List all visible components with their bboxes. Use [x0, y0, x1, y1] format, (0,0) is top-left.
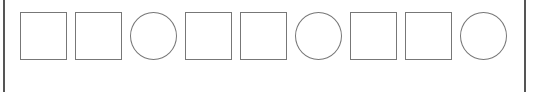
circle-shape-9[interactable]	[460, 12, 507, 60]
square-shape-8[interactable]	[405, 12, 452, 60]
square-shape-7[interactable]	[350, 12, 397, 60]
circle-shape-6[interactable]	[295, 12, 342, 60]
square-shape-1[interactable]	[20, 12, 67, 60]
circle-shape-3[interactable]	[130, 12, 177, 60]
square-shape-5[interactable]	[240, 12, 287, 60]
square-shape-2[interactable]	[75, 12, 122, 60]
square-shape-4[interactable]	[185, 12, 232, 60]
shape-row	[20, 12, 507, 60]
